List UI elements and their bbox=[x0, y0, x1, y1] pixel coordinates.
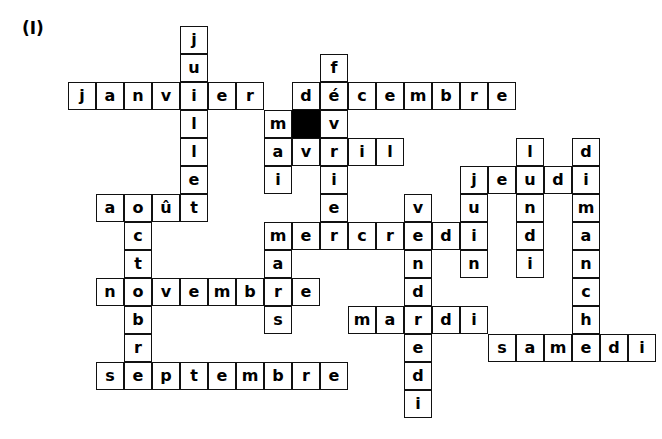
grid-cell[interactable]: b bbox=[124, 306, 152, 334]
grid-cell[interactable]: a bbox=[264, 250, 292, 278]
grid-cell[interactable]: i bbox=[516, 250, 544, 278]
grid-cell[interactable]: a bbox=[376, 306, 404, 334]
grid-cell[interactable]: j bbox=[180, 26, 208, 54]
grid-cell[interactable]: i bbox=[404, 390, 432, 418]
grid-cell[interactable]: c bbox=[572, 278, 600, 306]
grid-cell[interactable]: i bbox=[628, 334, 656, 362]
grid-cell[interactable]: c bbox=[348, 222, 376, 250]
grid-cell[interactable]: r bbox=[320, 138, 348, 166]
grid-cell[interactable]: j bbox=[460, 166, 488, 194]
grid-cell[interactable]: a bbox=[264, 138, 292, 166]
grid-cell[interactable]: n bbox=[516, 194, 544, 222]
grid-cell[interactable]: b bbox=[236, 278, 264, 306]
grid-cell[interactable]: o bbox=[124, 278, 152, 306]
grid-cell[interactable]: r bbox=[404, 306, 432, 334]
grid-cell[interactable]: t bbox=[180, 362, 208, 390]
grid-cell[interactable]: s bbox=[96, 362, 124, 390]
grid-cell[interactable]: d bbox=[292, 82, 320, 110]
grid-cell[interactable]: l bbox=[376, 138, 404, 166]
grid-cell[interactable]: u bbox=[516, 166, 544, 194]
grid-cell[interactable]: m bbox=[236, 362, 264, 390]
grid-cell[interactable]: a bbox=[572, 222, 600, 250]
grid-cell[interactable]: c bbox=[124, 222, 152, 250]
grid-cell[interactable]: b bbox=[432, 82, 460, 110]
grid-cell[interactable]: v bbox=[320, 110, 348, 138]
grid-cell[interactable]: e bbox=[124, 362, 152, 390]
grid-cell[interactable]: s bbox=[488, 334, 516, 362]
grid-cell[interactable]: c bbox=[348, 82, 376, 110]
grid-cell[interactable]: u bbox=[180, 54, 208, 82]
grid-cell[interactable]: e bbox=[180, 166, 208, 194]
grid-cell[interactable]: û bbox=[152, 194, 180, 222]
grid-cell[interactable]: i bbox=[460, 222, 488, 250]
grid-cell[interactable]: i bbox=[264, 166, 292, 194]
grid-cell[interactable]: n bbox=[572, 250, 600, 278]
grid-cell[interactable]: b bbox=[264, 362, 292, 390]
grid-cell[interactable]: i bbox=[180, 82, 208, 110]
grid-cell[interactable]: o bbox=[124, 194, 152, 222]
grid-cell[interactable]: r bbox=[236, 82, 264, 110]
grid-cell[interactable]: m bbox=[404, 82, 432, 110]
grid-cell[interactable]: f bbox=[320, 54, 348, 82]
grid-cell[interactable]: e bbox=[376, 82, 404, 110]
grid-cell[interactable]: i bbox=[572, 166, 600, 194]
grid-cell[interactable]: i bbox=[460, 306, 488, 334]
grid-cell[interactable]: n bbox=[460, 250, 488, 278]
grid-cell[interactable]: p bbox=[152, 362, 180, 390]
grid-cell[interactable]: u bbox=[460, 194, 488, 222]
grid-cell[interactable]: l bbox=[180, 138, 208, 166]
grid-cell[interactable]: r bbox=[124, 334, 152, 362]
grid-cell[interactable]: v bbox=[152, 82, 180, 110]
grid-cell[interactable]: l bbox=[180, 110, 208, 138]
grid-cell[interactable]: i bbox=[348, 138, 376, 166]
grid-cell[interactable]: a bbox=[96, 82, 124, 110]
grid-cell[interactable]: d bbox=[404, 362, 432, 390]
grid-cell[interactable]: v bbox=[152, 278, 180, 306]
grid-cell[interactable]: r bbox=[320, 222, 348, 250]
grid-cell[interactable]: h bbox=[572, 306, 600, 334]
grid-cell[interactable]: j bbox=[68, 82, 96, 110]
grid-cell[interactable]: d bbox=[600, 334, 628, 362]
grid-cell[interactable]: d bbox=[404, 278, 432, 306]
grid-cell[interactable]: e bbox=[180, 278, 208, 306]
grid-cell[interactable]: e bbox=[488, 166, 516, 194]
grid-cell[interactable]: e bbox=[208, 362, 236, 390]
grid-cell[interactable]: n bbox=[404, 250, 432, 278]
grid-cell[interactable]: e bbox=[404, 334, 432, 362]
grid-cell[interactable]: d bbox=[432, 306, 460, 334]
grid-cell[interactable]: v bbox=[404, 194, 432, 222]
grid-cell[interactable]: a bbox=[96, 194, 124, 222]
grid-cell[interactable]: s bbox=[264, 306, 292, 334]
grid-cell[interactable]: n bbox=[96, 278, 124, 306]
grid-cell[interactable]: d bbox=[516, 222, 544, 250]
grid-cell[interactable]: l bbox=[516, 138, 544, 166]
grid-cell[interactable]: r bbox=[376, 222, 404, 250]
grid-cell[interactable]: v bbox=[292, 138, 320, 166]
grid-cell[interactable]: é bbox=[320, 82, 348, 110]
grid-cell[interactable]: e bbox=[320, 194, 348, 222]
grid-cell[interactable]: m bbox=[264, 222, 292, 250]
grid-cell[interactable]: i bbox=[320, 166, 348, 194]
grid-cell[interactable]: m bbox=[348, 306, 376, 334]
grid-cell[interactable]: e bbox=[208, 82, 236, 110]
grid-cell[interactable]: d bbox=[432, 222, 460, 250]
grid-cell[interactable]: n bbox=[124, 82, 152, 110]
grid-cell[interactable]: e bbox=[292, 278, 320, 306]
grid-cell[interactable]: e bbox=[572, 334, 600, 362]
grid-cell[interactable]: r bbox=[292, 362, 320, 390]
grid-cell[interactable]: t bbox=[180, 194, 208, 222]
grid-cell[interactable]: a bbox=[516, 334, 544, 362]
grid-cell[interactable]: e bbox=[320, 362, 348, 390]
grid-cell[interactable]: d bbox=[572, 138, 600, 166]
grid-cell[interactable]: r bbox=[460, 82, 488, 110]
grid-cell[interactable]: m bbox=[264, 110, 292, 138]
grid-cell[interactable]: e bbox=[488, 82, 516, 110]
grid-cell[interactable]: d bbox=[544, 166, 572, 194]
grid-cell[interactable]: r bbox=[264, 278, 292, 306]
grid-cell[interactable]: m bbox=[544, 334, 572, 362]
grid-cell[interactable]: m bbox=[572, 194, 600, 222]
grid-cell[interactable]: t bbox=[124, 250, 152, 278]
grid-cell[interactable]: e bbox=[292, 222, 320, 250]
grid-cell[interactable]: m bbox=[208, 278, 236, 306]
grid-cell[interactable]: e bbox=[404, 222, 432, 250]
